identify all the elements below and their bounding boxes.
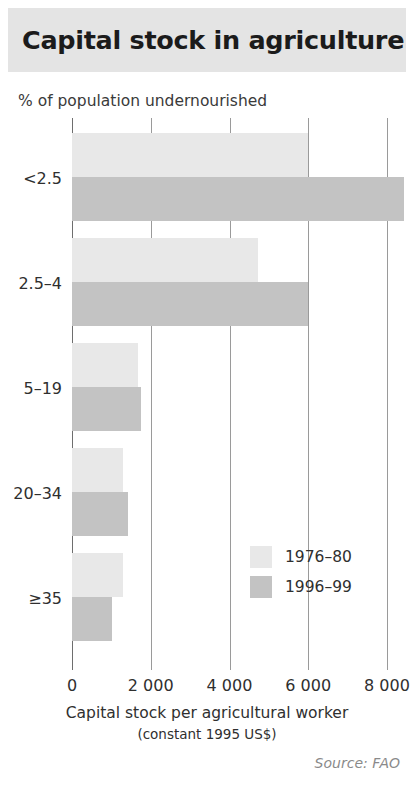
title-band: Capital stock in agriculture [8, 8, 406, 72]
bar-row [0, 387, 414, 431]
legend-swatch-1996–99 [250, 576, 272, 598]
legend-label-1976–80: 1976–80 [285, 548, 352, 566]
x-axis-label: Capital stock per agricultural worker [0, 704, 414, 722]
bar-20–34-1996–99 [72, 492, 128, 536]
x-tick-0: 0 [67, 676, 77, 695]
bar-row [0, 238, 414, 282]
bar-<2.5-1996–99 [72, 177, 404, 221]
bar-group: 5–19 [0, 343, 414, 431]
x-axis-label-sub: (constant 1995 US$) [0, 726, 414, 742]
category-label-2.5–4: 2.5–4 [0, 274, 62, 293]
x-tick-6000: 6 000 [285, 676, 331, 695]
bar-row [0, 448, 414, 492]
y-axis-label: % of population undernourished [18, 92, 267, 110]
category-label-5–19: 5–19 [0, 379, 62, 398]
bar-2.5–4-1976–80 [72, 238, 258, 282]
source-note: Source: FAO [315, 755, 400, 771]
bar-5–19-1976–80 [72, 343, 138, 387]
bar-≥35-1976–80 [72, 553, 123, 597]
bar-20–34-1976–80 [72, 448, 123, 492]
x-axis-tick-labels: 02 0004 0006 0008 000 [0, 676, 414, 698]
bar-<2.5-1976–80 [72, 133, 308, 177]
x-tick-2000: 2 000 [128, 676, 174, 695]
bar-2.5–4-1996–99 [72, 282, 308, 326]
legend-swatch-1976–80 [250, 546, 272, 568]
bar-group: <2.5 [0, 133, 414, 221]
chart-page: Capital stock in agriculture % of popula… [0, 0, 414, 792]
bar-≥35-1996–99 [72, 597, 112, 641]
page-title: Capital stock in agriculture [8, 25, 404, 55]
category-label-20–34: 20–34 [0, 484, 62, 503]
legend-label-1996–99: 1996–99 [285, 578, 352, 596]
legend: 1976–801996–99 [250, 542, 352, 602]
bar-row [0, 133, 414, 177]
bar-row [0, 492, 414, 536]
bar-row [0, 282, 414, 326]
bar-group: 2.5–4 [0, 238, 414, 326]
plot-area: <2.52.5–45–1920–34≥35 1976–801996–99 [0, 118, 414, 670]
x-tick-8000: 8 000 [364, 676, 410, 695]
bar-row [0, 597, 414, 641]
bar-group: 20–34 [0, 448, 414, 536]
bar-5–19-1996–99 [72, 387, 141, 431]
legend-item-1996–99: 1996–99 [250, 572, 352, 602]
x-tick-4000: 4 000 [207, 676, 253, 695]
category-label-≥35: ≥35 [0, 589, 62, 608]
legend-item-1976–80: 1976–80 [250, 542, 352, 572]
category-label-<2.5: <2.5 [0, 169, 62, 188]
bar-row [0, 177, 414, 221]
bar-row [0, 343, 414, 387]
